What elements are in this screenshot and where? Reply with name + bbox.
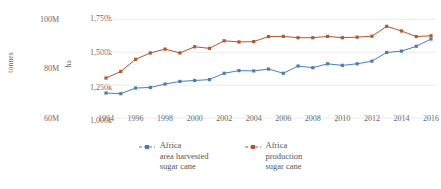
- legend-marker-icon: [139, 144, 155, 150]
- data-point-marker: [163, 48, 166, 51]
- data-point-marker: [134, 86, 137, 89]
- data-point-marker: [326, 62, 329, 65]
- data-point-marker: [385, 25, 388, 28]
- right-axis-title: ha: [64, 60, 73, 67]
- data-point-marker: [267, 67, 270, 70]
- data-point-marker: [311, 66, 314, 69]
- x-axis-tick-2014: 2014: [387, 114, 415, 123]
- data-point-marker: [104, 91, 107, 94]
- left-axis-tick-100M: 100M: [25, 15, 59, 24]
- legend-label-area-harvested: Africa area harvested sugar cane: [160, 140, 209, 172]
- plot-area: [100, 14, 435, 122]
- x-axis-tick-2000: 2000: [181, 114, 209, 123]
- data-point-marker: [223, 39, 226, 42]
- data-point-marker: [429, 37, 432, 40]
- legend-item-area-harvested[interactable]: Africa area harvested sugar cane: [139, 140, 209, 172]
- data-point-marker: [341, 64, 344, 67]
- x-axis-tick-1998: 1998: [151, 114, 179, 123]
- data-point-marker: [385, 51, 388, 54]
- data-point-marker: [356, 36, 359, 39]
- data-point-marker: [370, 60, 373, 63]
- chart-legend: Africa area harvested sugar cane Africa …: [0, 140, 441, 172]
- left-axis-tick-80M: 80M: [25, 64, 59, 73]
- left-axis-title: tonnes: [6, 52, 15, 73]
- data-point-marker: [282, 72, 285, 75]
- data-point-marker: [149, 51, 152, 54]
- data-point-marker: [267, 35, 270, 38]
- x-axis-tick-2004: 2004: [240, 114, 268, 123]
- data-point-marker: [415, 35, 418, 38]
- data-point-marker: [208, 47, 211, 50]
- data-point-marker: [237, 40, 240, 43]
- data-point-marker: [326, 35, 329, 38]
- x-axis-tick-1994: 1994: [92, 114, 120, 123]
- left-axis-tick-60M: 60M: [25, 114, 59, 123]
- series-canvas: [100, 14, 435, 122]
- data-point-marker: [208, 78, 211, 81]
- x-axis-tick-2012: 2012: [358, 114, 386, 123]
- data-point-marker: [429, 34, 432, 37]
- data-point-marker: [356, 62, 359, 65]
- legend-item-production[interactable]: Africa production sugar cane: [245, 140, 303, 172]
- data-point-marker: [311, 36, 314, 39]
- data-point-marker: [149, 86, 152, 89]
- data-point-marker: [252, 40, 255, 43]
- data-point-marker: [178, 80, 181, 83]
- data-point-marker: [415, 45, 418, 48]
- legend-marker-icon: [245, 144, 261, 150]
- data-point-marker: [282, 35, 285, 38]
- data-point-marker: [341, 36, 344, 39]
- data-point-marker: [119, 70, 122, 73]
- x-axis-tick-2002: 2002: [210, 114, 238, 123]
- data-point-marker: [178, 51, 181, 54]
- legend-label-production: Africa production sugar cane: [266, 140, 303, 172]
- data-point-marker: [400, 50, 403, 53]
- data-point-marker: [134, 58, 137, 61]
- x-axis-tick-2016: 2016: [417, 114, 441, 123]
- data-point-marker: [104, 76, 107, 79]
- data-point-marker: [237, 69, 240, 72]
- data-point-marker: [193, 45, 196, 48]
- x-axis-tick-2008: 2008: [299, 114, 327, 123]
- data-point-marker: [296, 36, 299, 39]
- data-point-marker: [400, 29, 403, 32]
- data-point-marker: [223, 72, 226, 75]
- series-area-harvested: [104, 37, 432, 95]
- data-point-marker: [296, 64, 299, 67]
- data-point-marker: [193, 79, 196, 82]
- data-point-marker: [119, 92, 122, 95]
- x-axis-tick-2010: 2010: [328, 114, 356, 123]
- x-axis-tick-2006: 2006: [269, 114, 297, 123]
- data-point-marker: [163, 82, 166, 85]
- x-axis-tick-1996: 1996: [122, 114, 150, 123]
- data-point-marker: [252, 69, 255, 72]
- data-point-marker: [370, 35, 373, 38]
- chart-container: tonnes ha 100M 80M 60M 1,750k 1,500k 1,2…: [0, 0, 441, 189]
